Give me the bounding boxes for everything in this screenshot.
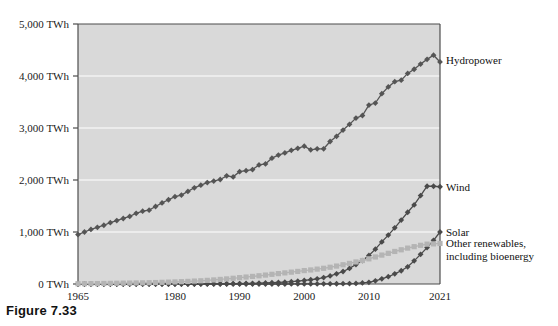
series-marker	[334, 263, 339, 268]
series-marker	[360, 258, 365, 263]
series-marker	[172, 279, 177, 284]
series-marker	[431, 241, 436, 246]
series-marker	[295, 269, 300, 274]
series-label: Hydropower	[446, 54, 502, 66]
series-marker	[224, 276, 229, 281]
x-axis-tick-label: 1980	[164, 290, 187, 302]
series-marker	[101, 281, 106, 286]
series-marker	[243, 274, 248, 279]
series-marker	[121, 281, 126, 286]
series-marker	[159, 280, 164, 285]
y-axis-tick-label: 3,000 TWh	[19, 122, 69, 134]
series-marker	[231, 276, 236, 281]
series-marker	[140, 280, 145, 285]
series-marker	[134, 280, 139, 285]
x-axis-tick-label: 1965	[67, 290, 90, 302]
y-axis-tick-label: 5,000 TWh	[19, 18, 69, 30]
series-marker	[250, 274, 255, 279]
series-marker	[75, 281, 80, 286]
y-axis-tick-label: 4,000 TWh	[19, 70, 69, 82]
series-marker	[205, 278, 210, 283]
series-marker	[308, 267, 313, 272]
figure-caption: Figure 7.33	[6, 303, 77, 318]
series-marker	[315, 267, 320, 272]
series-marker	[127, 280, 132, 285]
series-marker	[166, 280, 171, 285]
series-marker	[289, 270, 294, 275]
series-marker	[424, 242, 429, 247]
series-marker	[399, 247, 404, 252]
series-marker	[347, 261, 352, 266]
series-marker	[405, 246, 410, 251]
series-marker	[328, 265, 333, 270]
series-marker	[321, 266, 326, 271]
series-label: Wind	[446, 181, 470, 193]
series-marker	[82, 281, 87, 286]
series-marker	[185, 279, 190, 284]
x-axis-tick-label: 1990	[229, 290, 252, 302]
plot-area-background	[78, 24, 440, 284]
x-axis-tick-label: 2000	[293, 290, 316, 302]
series-marker	[88, 281, 93, 286]
series-marker	[179, 279, 184, 284]
renewable-energy-line-chart: 0 TWh1,000 TWh2,000 TWh3,000 TWh4,000 TW…	[0, 0, 558, 326]
series-marker	[108, 281, 113, 286]
y-axis-tick-label: 0 TWh	[38, 278, 69, 290]
series-marker	[386, 251, 391, 256]
series-marker	[237, 275, 242, 280]
series-marker	[353, 259, 358, 264]
series-marker	[437, 241, 442, 246]
series-marker	[276, 271, 281, 276]
series-marker	[263, 272, 268, 277]
x-axis-tick-label: 2010	[358, 290, 381, 302]
series-marker	[95, 281, 100, 286]
series-marker	[302, 268, 307, 273]
series-label: Solar	[446, 226, 470, 238]
series-marker	[211, 277, 216, 282]
series-marker	[418, 243, 423, 248]
series-marker	[198, 278, 203, 283]
series-marker	[153, 280, 158, 285]
series-marker	[373, 254, 378, 259]
series-marker	[392, 249, 397, 254]
series-marker	[282, 270, 287, 275]
y-axis-tick-label: 1,000 TWh	[19, 226, 69, 238]
series-marker	[366, 256, 371, 261]
figure-container: 0 TWh1,000 TWh2,000 TWh3,000 TWh4,000 TW…	[0, 0, 558, 326]
y-axis-tick-label: 2,000 TWh	[19, 174, 69, 186]
series-marker	[218, 277, 223, 282]
series-marker	[269, 272, 274, 277]
series-marker	[256, 273, 261, 278]
series-marker	[379, 252, 384, 257]
series-marker	[114, 281, 119, 286]
series-label-line2: including bioenergy	[446, 250, 535, 262]
series-marker	[340, 262, 345, 267]
series-marker	[412, 244, 417, 249]
series-label: Other renewables,	[446, 237, 526, 249]
x-axis-tick-label: 2021	[429, 290, 451, 302]
series-marker	[192, 278, 197, 283]
series-marker	[147, 280, 152, 285]
